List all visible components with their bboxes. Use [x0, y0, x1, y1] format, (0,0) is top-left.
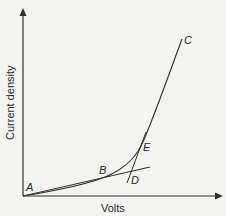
y-axis-label: Current density — [4, 65, 16, 140]
point-label-e: E — [143, 141, 151, 153]
x-axis-arrow-icon — [215, 193, 223, 200]
y-axis-arrow-icon — [20, 8, 27, 16]
point-label-c: C — [184, 34, 192, 46]
point-label-b: B — [99, 164, 106, 176]
current-density-voltage-diagram: Current density Volts A B C D E — [0, 0, 226, 216]
point-label-d: D — [131, 174, 139, 186]
diagram-canvas: Current density Volts A B C D E — [0, 0, 226, 216]
x-axis-label: Volts — [101, 202, 125, 214]
point-label-a: A — [25, 181, 33, 193]
